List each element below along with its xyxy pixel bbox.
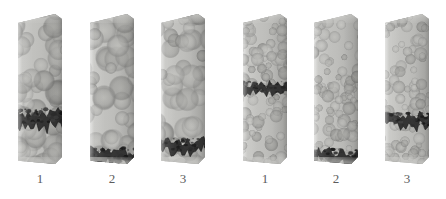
shear-band [385,102,429,131]
column-bottom-face [385,157,429,164]
column-group-2: 123 [0,0,446,199]
column-body [243,14,287,164]
particle-texture [385,14,429,164]
column-top-face [314,14,358,23]
granular-column: 1 [243,0,287,199]
granular-column: 3 [385,0,429,199]
column-body [385,14,429,164]
column-bottom-face [314,157,358,164]
granular-column: 2 [314,0,358,199]
column-top-face [243,14,287,23]
figure-canvas: 123123 [0,0,446,199]
column-body [314,14,358,164]
particle-assembly [385,14,429,164]
column-bottom-face [243,157,287,164]
particle-assembly [243,14,287,164]
column-label: 2 [314,172,358,185]
column-top-face [385,14,429,23]
column-label: 1 [243,172,287,185]
shear-band [243,73,287,96]
particle-assembly [314,14,358,164]
column-label: 3 [385,172,429,185]
